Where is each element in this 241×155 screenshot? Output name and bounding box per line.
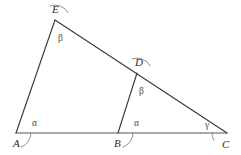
segments-layer: [16, 20, 227, 133]
segment-ec: [55, 20, 227, 133]
point-label-b: B: [114, 137, 121, 149]
angle-E-label: β: [58, 33, 63, 43]
arc-angle-A: [21, 133, 31, 147]
angle-arcs-layer: [21, 5, 214, 147]
geometry-figure: ααββγ ABCDE: [0, 0, 241, 155]
arc-angle-C: [212, 133, 214, 140]
angle-B-label: α: [134, 118, 139, 128]
arc-angle-B: [123, 133, 133, 147]
point-labels-layer: ABCDE: [12, 3, 230, 150]
point-label-e: E: [51, 3, 59, 15]
angle-C-label: γ: [204, 120, 209, 130]
angle-A-label: α: [32, 118, 37, 128]
segment-ae: [16, 20, 55, 133]
point-label-a: A: [12, 137, 20, 149]
point-label-d: D: [134, 56, 143, 68]
point-label-c: C: [222, 138, 230, 150]
angle-labels-layer: ααββγ: [32, 33, 209, 130]
figure-canvas: ααββγ ABCDE: [0, 0, 241, 155]
angle-D-label: β: [139, 86, 144, 96]
